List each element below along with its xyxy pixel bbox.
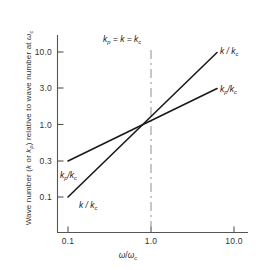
curve-label-k-over-kc-left: k / kc <box>79 200 97 210</box>
series-line-kp-over-kc <box>68 89 217 162</box>
y-axis-title: Wave number (k or kp) relative to wave n… <box>17 28 35 228</box>
x-axis-title: ω/ωc <box>0 250 256 260</box>
x-tick-label-1: 1.0 <box>131 236 171 246</box>
x-tick-label-10: 10.0 <box>214 236 254 246</box>
curve-label-k-over-kc-right: k / kc <box>220 46 238 56</box>
y-axis-title-text: Wave number (k or kp) relative to wave n… <box>24 31 33 226</box>
curve-label-kp-over-kc-left: kp/kc <box>60 170 77 180</box>
curve-label-kp-over-kc-right: kp/kc <box>220 84 237 94</box>
x-tick-label-0-1: 0.1 <box>48 236 88 246</box>
chart-figure: 10.0 3.0 1.0 0.3 0.1 0.1 1.0 10.0 ω/ωc W… <box>0 0 256 270</box>
reference-line-annotation: kp = k = kc <box>103 34 141 44</box>
